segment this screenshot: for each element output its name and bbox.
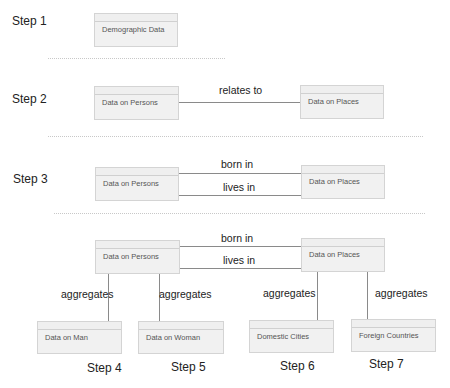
step-3-label: Step 3 [13, 172, 48, 186]
relation-label-born-in: born in [221, 158, 253, 170]
relation-label-lives-in: lives in [223, 254, 255, 266]
step-6-label: Step 6 [280, 359, 315, 373]
relation-line-born-in [179, 173, 301, 174]
relation-label-relates-to: relates to [219, 84, 262, 96]
relation-label-lives-in: lives in [223, 181, 255, 193]
entity-header [96, 168, 178, 176]
step-1-label: Step 1 [12, 14, 47, 28]
separator-1 [48, 58, 225, 59]
entity-label: Domestic Cities [250, 329, 333, 341]
entity-data-on-places[interactable]: Data on Places [300, 85, 384, 119]
entity-label: Demographic Data [95, 22, 177, 34]
aggregates-label-foreign: aggregates [375, 287, 428, 299]
entity-label: Data on Persons [96, 176, 178, 188]
aggregate-line-foreign [367, 272, 368, 320]
entity-data-on-persons[interactable]: Data on Persons [95, 240, 180, 274]
entity-header [302, 166, 384, 174]
entity-header [302, 239, 384, 247]
aggregates-label-woman: aggregates [159, 288, 212, 300]
entity-header [38, 322, 121, 330]
aggregate-line-domestic [317, 272, 318, 320]
aggregates-label-domestic: aggregates [263, 287, 316, 299]
entity-label: Data on Places [301, 94, 383, 106]
entity-header [301, 86, 383, 94]
entity-label: Data on Places [302, 174, 384, 186]
entity-data-on-woman[interactable]: Data on Woman [138, 321, 224, 354]
separator-2 [48, 136, 423, 137]
entity-header [139, 322, 223, 330]
entity-data-on-places[interactable]: Data on Places [301, 238, 385, 272]
entity-data-on-persons[interactable]: Data on Persons [95, 167, 179, 201]
relation-line-relates-to [179, 102, 300, 103]
entity-data-on-persons[interactable]: Data on Persons [94, 86, 179, 120]
entity-demographic-data[interactable]: Demographic Data [94, 13, 178, 47]
entity-domestic-cities[interactable]: Domestic Cities [249, 320, 334, 353]
entity-label: Data on Places [302, 247, 384, 259]
aggregates-label-man: aggregates [61, 288, 114, 300]
step-7-label: Step 7 [369, 357, 404, 371]
relation-line-lives-in [180, 268, 301, 269]
step-5-label: Step 5 [171, 360, 206, 374]
entity-label: Data on Persons [96, 249, 179, 261]
separator-3 [54, 213, 425, 214]
entity-label: Data on Man [38, 330, 121, 342]
entity-label: Data on Woman [139, 330, 223, 342]
relation-line-lives-in [179, 195, 301, 196]
entity-foreign-countries[interactable]: Foreign Countries [351, 319, 436, 352]
entity-data-on-places[interactable]: Data on Places [301, 165, 385, 199]
relation-label-born-in: born in [221, 232, 253, 244]
entity-label: Foreign Countries [352, 328, 435, 340]
entity-header [352, 320, 435, 328]
entity-header [96, 241, 179, 249]
entity-header [95, 14, 177, 22]
entity-data-on-man[interactable]: Data on Man [37, 321, 122, 354]
relation-line-born-in [180, 246, 301, 247]
entity-header [95, 87, 178, 95]
entity-header [250, 321, 333, 329]
step-4-label: Step 4 [87, 361, 122, 375]
entity-label: Data on Persons [95, 95, 178, 107]
step-2-label: Step 2 [12, 92, 47, 106]
